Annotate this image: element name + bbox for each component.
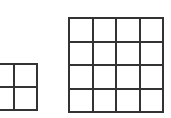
grid-cell	[0, 64, 14, 87]
grid-cell	[69, 65, 93, 89]
large-grid	[68, 17, 164, 113]
grid-cell	[69, 18, 93, 42]
grid-cell	[140, 65, 164, 89]
grid-cell	[116, 65, 140, 89]
grid-cell	[116, 89, 140, 113]
grid-cell	[93, 42, 117, 66]
grid-cell	[116, 18, 140, 42]
small-grid	[0, 63, 38, 111]
grid-cell	[14, 87, 37, 110]
grid-cell	[116, 42, 140, 66]
grid-cell	[93, 89, 117, 113]
grid-cell	[140, 89, 164, 113]
grid-cell	[140, 18, 164, 42]
grid-cell	[0, 87, 14, 110]
grid-cell	[93, 65, 117, 89]
grid-cell	[93, 18, 117, 42]
grid-cell	[69, 89, 93, 113]
grid-cell	[14, 64, 37, 87]
grid-cell	[69, 42, 93, 66]
grid-cell	[140, 42, 164, 66]
